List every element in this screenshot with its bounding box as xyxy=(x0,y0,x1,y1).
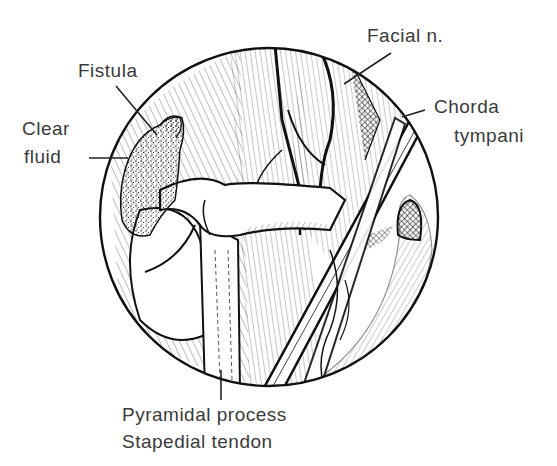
label-fistula: Fistula xyxy=(78,60,137,82)
label-chorda-line1: Chorda xyxy=(434,96,499,118)
label-clear-fluid-line2: fluid xyxy=(24,146,61,168)
label-clear-fluid-line1: Clear xyxy=(22,118,70,140)
label-facial-nerve: Facial n. xyxy=(367,25,443,47)
label-chorda-line2: tympani xyxy=(454,125,524,147)
label-pyramidal-process: Pyramidal process xyxy=(122,404,287,426)
chorda-tympani-leader xyxy=(402,110,425,117)
label-stapedial-tendon: Stapedial tendon xyxy=(122,431,273,453)
pyramidal-process xyxy=(200,220,240,390)
